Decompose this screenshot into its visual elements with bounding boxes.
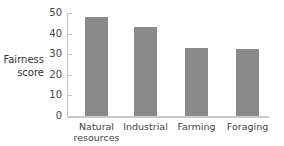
y-tick xyxy=(67,54,72,55)
y-axis-label-line: Fairness xyxy=(3,53,44,66)
bar xyxy=(85,17,108,116)
y-tick-label: 30 xyxy=(42,48,62,60)
y-tick xyxy=(67,75,72,76)
y-tick xyxy=(67,116,72,117)
bar xyxy=(236,49,259,116)
y-tick xyxy=(67,13,72,14)
y-tick xyxy=(67,95,72,96)
x-category-label-line: resources xyxy=(67,132,127,143)
y-axis xyxy=(67,13,68,116)
y-tick-label: 20 xyxy=(42,69,62,81)
x-category-label-line: Foraging xyxy=(218,121,278,132)
y-tick-label: 0 xyxy=(42,110,62,122)
bar xyxy=(185,48,208,116)
y-tick-label: 10 xyxy=(42,89,62,101)
y-tick-label: 40 xyxy=(42,28,62,40)
x-axis xyxy=(67,116,269,118)
bar xyxy=(134,27,157,116)
y-axis-label: Fairness score xyxy=(3,53,44,79)
y-tick xyxy=(67,34,72,35)
y-tick-label: 50 xyxy=(42,7,62,19)
x-category-label: Foraging xyxy=(218,121,278,132)
y-axis-label-line: score xyxy=(3,66,44,79)
